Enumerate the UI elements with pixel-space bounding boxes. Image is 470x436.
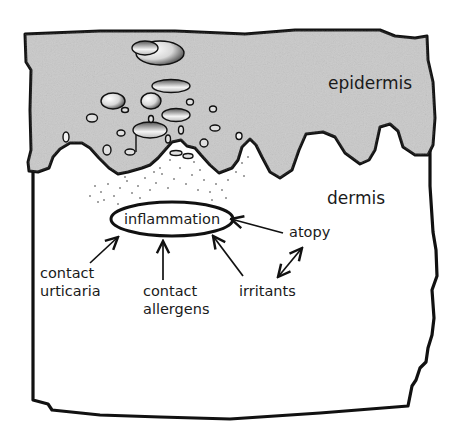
dermis-label: dermis bbox=[327, 188, 385, 208]
irritants-label: irritants bbox=[239, 283, 296, 299]
inflammation-node: inflammation bbox=[111, 202, 233, 236]
inflammation-label: inflammation bbox=[124, 211, 220, 227]
epidermis-label: epidermis bbox=[328, 73, 412, 93]
skin-inflammation-diagram: epidermis dermis inflammation contact ur… bbox=[0, 0, 470, 436]
atopy-label: atopy bbox=[289, 224, 331, 240]
